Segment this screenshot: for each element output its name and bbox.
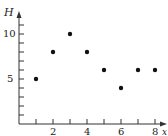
scatter-chart: H x 10 5 2 4 6 8 [0,0,168,136]
data-point [85,50,89,54]
x-axis-label: x [162,127,167,136]
data-point [102,68,106,72]
data-point [34,77,38,81]
x-tick-label-8: 8 [152,126,158,136]
x-tick-label-4: 4 [84,126,90,136]
data-point [119,86,123,90]
x-tick-label-6: 6 [118,126,124,136]
y-tick-label-5: 5 [7,73,13,84]
y-tick-label-10: 10 [3,28,16,39]
data-point [153,68,157,72]
x-tick-label-2: 2 [50,126,56,136]
x-ticks [36,119,155,124]
data-point [51,50,55,54]
x-axis-arrow-icon [160,122,167,127]
data-point [68,32,72,36]
data-points [34,32,157,90]
y-axis-label: H [3,6,14,19]
y-axis-arrow-icon [17,11,22,18]
y-ticks [19,25,24,115]
data-point [136,68,140,72]
